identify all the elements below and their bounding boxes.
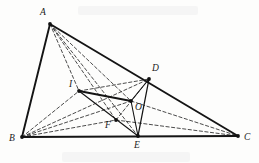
vertex-label-c: C [244,133,250,143]
vertex-label-b: B [9,134,15,144]
segment-AE [50,24,138,136]
segment-AF [50,24,116,120]
segment-BF [22,120,116,137]
side-AB [22,24,50,137]
segment-AI [50,24,79,91]
vertex-dot-d [147,77,151,81]
vertex-label-e: E [134,141,140,151]
vertex-label-i: I [69,80,72,90]
vertex-label-o: O [135,103,142,113]
vertex-dot-b [20,135,24,139]
vertex-dot-group [20,22,240,139]
solid-segment-group [22,24,238,137]
vertex-label-f: F [105,121,111,131]
geometry-figure: ABCDEIOF [0,0,259,163]
dashed-segment-group [22,24,238,137]
vertex-dot-f [114,118,118,122]
segment-BD [22,79,149,137]
figure-canvas [0,0,259,163]
vertex-label-a: A [40,8,46,18]
vertex-dot-c [236,134,240,138]
vertex-dot-a [48,22,52,26]
side-BC [22,136,238,137]
side-AC [50,24,238,136]
segment-BI [22,91,79,137]
segment-OC [131,101,238,136]
vertex-dot-e [136,134,140,138]
vertex-dot-o [129,99,133,103]
vertex-dot-i [77,89,81,93]
vertex-label-d: D [152,64,159,74]
